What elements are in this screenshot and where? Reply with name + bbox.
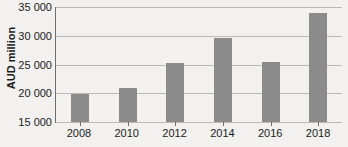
x-tick-label: 2018 [294,127,342,139]
bar[interactable] [262,62,280,122]
bar[interactable] [119,88,137,122]
y-tick-label: 25 000 [14,59,52,70]
bar-slot [151,7,199,122]
y-axis-tick-labels: 35 000 30 000 25 000 20 000 15 000 [14,0,52,124]
y-tick-label: 20 000 [14,88,52,99]
bar-chart: AUD million 35 000 30 000 25 000 20 000 … [0,0,348,147]
gridline [56,122,342,123]
bar-slot [247,7,295,122]
x-axis-tick [223,122,224,126]
bar-slot [56,7,104,122]
plot-area [55,7,342,123]
y-tick-label: 35 000 [14,2,52,13]
bar[interactable] [214,38,232,122]
x-axis-tick [175,122,176,126]
x-axis-tick [80,122,81,126]
bars-layer [56,7,342,122]
bar[interactable] [166,63,184,122]
x-axis-tick [318,122,319,126]
x-tick-label: 2016 [246,127,294,139]
y-tick-label: 15 000 [14,117,52,128]
x-tick-label: 2010 [103,127,151,139]
bar-slot [199,7,247,122]
x-tick-label: 2008 [55,127,103,139]
bar[interactable] [309,13,327,122]
bar-slot [104,7,152,122]
x-tick-label: 2012 [151,127,199,139]
bar[interactable] [71,94,89,122]
x-axis-tick [271,122,272,126]
x-axis-tick-labels: 2008 2010 2012 2014 2016 2018 [55,127,342,139]
x-axis-tick [128,122,129,126]
x-tick-label: 2014 [198,127,246,139]
bar-slot [294,7,342,122]
y-tick-label: 30 000 [14,30,52,41]
